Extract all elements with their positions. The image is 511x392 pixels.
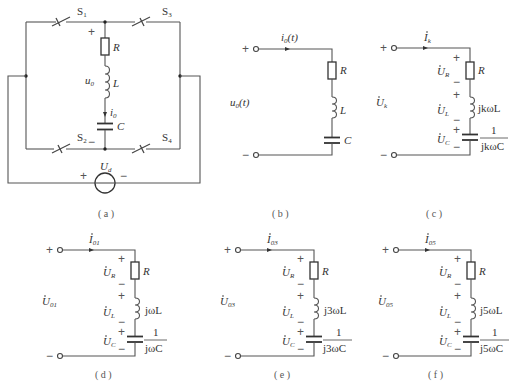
capacitor-num: 1 bbox=[492, 326, 498, 338]
current-arrow-icon bbox=[425, 248, 430, 252]
uc-minus: − bbox=[297, 342, 304, 356]
caption-f: ( f ) bbox=[428, 369, 443, 381]
caption-d: ( d ) bbox=[95, 369, 112, 381]
caption-b: ( b ) bbox=[272, 208, 289, 220]
ur-label: UR bbox=[437, 65, 450, 79]
source-ud-label: Ud bbox=[100, 160, 112, 174]
minus-sign: − bbox=[46, 349, 53, 363]
current-i01-label: I01 bbox=[88, 233, 100, 247]
uc-label: UC bbox=[437, 133, 450, 147]
ur-minus: − bbox=[453, 75, 460, 89]
plus-sign: + bbox=[382, 243, 389, 257]
terminal-bottom-icon bbox=[394, 354, 399, 359]
resistor-label: R bbox=[478, 265, 486, 277]
capacitor-label: C bbox=[117, 120, 125, 132]
current-i05-label: I05 bbox=[424, 233, 436, 247]
current-arrow-icon bbox=[89, 248, 94, 252]
terminal-top-icon bbox=[254, 47, 259, 52]
inductor-icon bbox=[471, 298, 476, 319]
inductor-icon bbox=[332, 97, 337, 118]
ur-plus: + bbox=[297, 252, 304, 266]
uc-plus: + bbox=[453, 123, 460, 137]
terminal-top-icon bbox=[392, 46, 397, 51]
current-i03-label: I03 bbox=[266, 233, 278, 247]
uc-minus: − bbox=[118, 342, 125, 356]
resistor-icon bbox=[466, 62, 474, 79]
terminal-bottom-icon bbox=[58, 354, 63, 359]
resistor-label: R bbox=[112, 41, 120, 53]
terminal-top-icon bbox=[236, 248, 241, 253]
switch-s1-label: S1 bbox=[77, 5, 87, 19]
capacitor-den: j3ωC bbox=[322, 342, 346, 354]
current-arrow-icon bbox=[285, 47, 290, 51]
capacitor-num: 1 bbox=[491, 124, 497, 136]
capacitor-den: jkωC bbox=[480, 140, 504, 152]
caption-e: ( e ) bbox=[274, 369, 290, 381]
uc-plus: + bbox=[297, 325, 304, 339]
ul-label: UL bbox=[439, 306, 451, 320]
inductor-impedance-label: j3ωL bbox=[323, 304, 347, 316]
inductor-icon bbox=[105, 66, 110, 98]
uc-label: UC bbox=[282, 335, 295, 349]
resistor-label: R bbox=[321, 265, 329, 277]
uc-label: UC bbox=[103, 335, 116, 349]
inductor-icon bbox=[135, 298, 140, 319]
switch-s4-label: S4 bbox=[162, 131, 172, 145]
ul-plus: + bbox=[297, 289, 304, 303]
source-plus-sign: + bbox=[80, 169, 87, 183]
voltage-u03-label: U03 bbox=[220, 295, 235, 309]
inductor-impedance-label: j5ωL bbox=[479, 304, 503, 316]
terminal-bottom-icon bbox=[392, 153, 397, 158]
figure-d-fundamental-circuit bbox=[58, 248, 144, 359]
inductor-impedance-label: jkωL bbox=[477, 102, 501, 114]
current-arrow-icon bbox=[423, 46, 428, 50]
capacitor-icon bbox=[324, 138, 340, 144]
terminal-bottom-icon bbox=[236, 354, 241, 359]
voltage-u0-label: u0 bbox=[85, 74, 95, 88]
resistor-icon bbox=[310, 262, 318, 279]
current-i0-label: i0 bbox=[110, 106, 117, 120]
ul-plus: + bbox=[118, 289, 125, 303]
ur-label: UR bbox=[103, 266, 116, 280]
terminal-top-icon bbox=[394, 248, 399, 253]
capacitor-icon bbox=[306, 337, 322, 343]
inductor-icon bbox=[470, 97, 475, 118]
resistor-icon bbox=[328, 62, 336, 79]
capacitor-den: jωC bbox=[144, 342, 163, 354]
ul-plus: + bbox=[453, 88, 460, 102]
uc-minus: − bbox=[454, 342, 461, 356]
resistor-icon bbox=[101, 38, 109, 55]
capacitor-icon bbox=[97, 124, 113, 130]
minus-sign: − bbox=[380, 148, 387, 162]
switch-s3-label: S3 bbox=[162, 5, 172, 19]
plus-sign: + bbox=[224, 243, 231, 257]
minus-sign: − bbox=[242, 148, 249, 162]
current-arrow-icon bbox=[267, 248, 272, 252]
uc-plus: + bbox=[118, 325, 125, 339]
plus-sign: + bbox=[88, 25, 95, 39]
capacitor-num: 1 bbox=[336, 326, 342, 338]
current-arrow-icon bbox=[103, 112, 107, 117]
plus-sign: + bbox=[242, 42, 249, 56]
figure-c-phasor-circuit bbox=[392, 46, 479, 158]
minus-sign: − bbox=[382, 349, 389, 363]
ur-plus: + bbox=[118, 252, 125, 266]
inductor-label: L bbox=[339, 104, 346, 116]
terminal-top-icon bbox=[58, 248, 63, 253]
resistor-label: R bbox=[477, 64, 485, 76]
resistor-icon bbox=[131, 262, 139, 279]
plus-sign: + bbox=[46, 243, 53, 257]
ur-label: UR bbox=[439, 266, 452, 280]
inductor-impedance-label: jωL bbox=[144, 304, 162, 316]
switch-s2-label: S2 bbox=[77, 131, 87, 145]
figure-f-fifth-harmonic-circuit bbox=[394, 248, 480, 359]
ur-label: UR bbox=[282, 266, 295, 280]
ul-label: UL bbox=[282, 306, 294, 320]
caption-a: ( a ) bbox=[98, 208, 114, 220]
capacitor-icon bbox=[127, 337, 143, 343]
plus-sign: + bbox=[380, 41, 387, 55]
capacitor-num: 1 bbox=[153, 326, 159, 338]
minus-sign: − bbox=[224, 349, 231, 363]
ur-plus: + bbox=[454, 252, 461, 266]
ul-label: UL bbox=[437, 104, 449, 118]
